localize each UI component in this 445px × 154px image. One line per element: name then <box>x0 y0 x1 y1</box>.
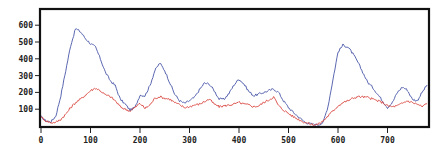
line-chart: 100200300400500600 010020030040050060070… <box>0 0 445 154</box>
y-tick-label: 600 <box>19 21 34 30</box>
x-tick-label: 0 <box>39 136 44 145</box>
x-tick-label: 100 <box>83 136 98 145</box>
x-tick-label: 600 <box>331 136 346 145</box>
x-axis: 0100200300400500600700 <box>39 128 395 145</box>
y-tick-label: 400 <box>19 55 34 64</box>
y-tick-label: 100 <box>19 105 34 114</box>
x-tick-label: 500 <box>281 136 296 145</box>
y-axis: 100200300400500600 <box>19 21 40 114</box>
series-line-blue <box>41 29 427 126</box>
plot-frame <box>40 9 429 127</box>
y-tick-label: 300 <box>19 72 34 81</box>
y-tick-label: 200 <box>19 88 34 97</box>
x-tick-label: 700 <box>380 136 395 145</box>
y-tick-label: 500 <box>19 38 34 47</box>
x-tick-label: 200 <box>133 136 148 145</box>
x-tick-label: 400 <box>232 136 247 145</box>
series-line-red <box>41 88 427 125</box>
x-tick-label: 300 <box>182 136 197 145</box>
plot-series <box>41 29 427 126</box>
